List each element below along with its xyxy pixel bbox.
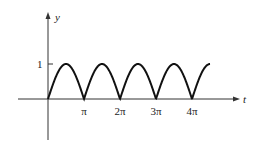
y-axis-label: y [54, 11, 60, 23]
y-axis-arrow-icon [46, 12, 51, 19]
abs-sine-curve [48, 64, 210, 99]
t-axis-label: t [243, 93, 247, 105]
chart: y t 1 π 2π 3π 4π [0, 0, 255, 146]
x-tick-label-pi: π [81, 105, 87, 117]
t-axis-arrow-icon [233, 97, 240, 102]
y-tick-label-1: 1 [37, 58, 43, 70]
x-tick-label-2pi: 2π [114, 105, 126, 117]
x-tick-label-3pi: 3π [150, 105, 162, 117]
x-tick-label-4pi: 4π [186, 105, 198, 117]
